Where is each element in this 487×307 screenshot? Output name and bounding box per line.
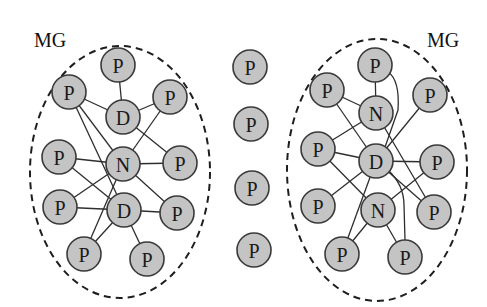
node-label: P [399,247,410,269]
node-M4: P [237,233,271,267]
node-L6: N [106,147,140,181]
node-label: P [63,82,74,104]
node-label: P [141,249,152,271]
node-R6: D [359,144,393,178]
node-L5: P [42,140,76,174]
node-label: P [312,139,323,161]
node-label: N [116,154,130,176]
node-label: P [246,178,257,200]
node-R9: N [361,193,395,227]
node-label: P [244,57,255,79]
node-L12: P [130,242,164,276]
node-L7: P [163,146,197,180]
node-label: N [369,103,383,125]
node-R2: P [310,73,344,107]
group-label-right: MG [427,29,459,51]
node-R4: P [413,78,447,112]
node-label: P [248,240,259,262]
node-label: D [369,151,383,173]
node-R5: P [301,132,335,166]
node-label: P [174,153,185,175]
node-label: D [116,107,130,129]
node-label: P [164,87,175,109]
node-R3: N [359,96,393,130]
node-label: P [428,202,439,224]
node-R12: P [388,240,422,274]
node-M2: P [234,107,268,141]
group-label-left: MG [34,29,66,51]
node-label: P [312,196,323,218]
diagram-canvas: PPDPPNPPDPPPPPPPPPNPPDPPNPPP MGMG [0,0,487,307]
node-L3: D [106,100,140,134]
node-label: P [54,197,65,219]
node-label: P [171,203,182,225]
node-L2: P [52,75,86,109]
node-label: P [369,55,380,77]
node-M1: P [233,50,267,84]
node-L9: D [107,193,141,227]
node-label: N [371,200,385,222]
node-label: P [336,244,347,266]
node-label: P [112,55,123,77]
node-L11: P [67,237,101,271]
node-label: D [117,200,131,222]
node-M3: P [235,171,269,205]
node-label: P [424,85,435,107]
node-label: P [78,244,89,266]
node-label: P [321,80,332,102]
node-R10: P [417,195,451,229]
node-R11: P [325,237,359,271]
node-L10: P [160,196,194,230]
node-label: P [245,114,256,136]
node-label: P [53,147,64,169]
node-R1: P [358,48,392,82]
node-L8: P [43,190,77,224]
node-label: P [431,152,442,174]
node-R7: P [420,145,454,179]
node-R8: P [301,189,335,223]
group-labels: MGMG [34,29,459,51]
node-L4: P [153,80,187,114]
node-L1: P [101,48,135,82]
